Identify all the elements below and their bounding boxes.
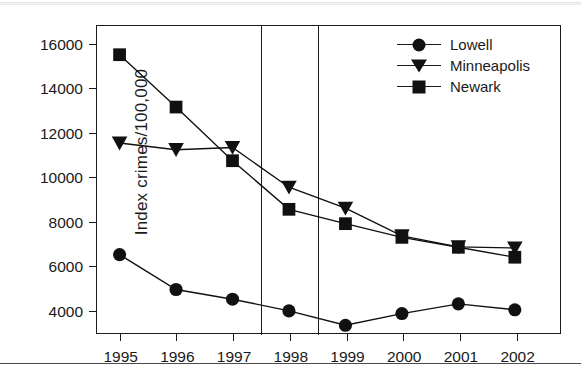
x-tick: 1999 [347, 333, 348, 341]
y-tick: 16000 [89, 44, 97, 45]
legend-label: Minneapolis [450, 56, 530, 76]
series-minneapolis [112, 136, 523, 255]
plot-area: Index crimes/100,000 4000600080001000012… [96, 25, 561, 334]
data-point-circle [113, 248, 126, 261]
data-point-triangle-down [281, 181, 297, 195]
data-point-circle [395, 307, 408, 320]
chart-page: Index crimes/100,000 4000600080001000012… [0, 0, 581, 376]
y-tick-label: 8000 [49, 214, 83, 232]
x-tick: 1996 [176, 333, 177, 341]
series-line [120, 143, 515, 248]
y-tick: 12000 [89, 133, 97, 134]
x-tick: 2002 [517, 333, 518, 341]
x-tick: 2001 [460, 333, 461, 341]
data-point-square [396, 231, 409, 244]
x-tick: 1995 [120, 333, 121, 341]
data-point-circle [169, 283, 182, 296]
x-tick: 1998 [290, 333, 291, 341]
data-point-circle [226, 293, 239, 306]
data-point-circle [508, 303, 521, 316]
data-point-square [508, 251, 521, 264]
scan-artifact-line [0, 2, 581, 5]
y-tick: 4000 [89, 311, 97, 312]
legend-marker-circle-icon [397, 35, 441, 55]
series-lowell [113, 248, 521, 332]
data-point-triangle-down [338, 202, 354, 216]
legend-label: Newark [450, 77, 501, 97]
data-point-square [226, 154, 239, 167]
y-tick-label: 16000 [40, 36, 83, 54]
data-point-circle [282, 304, 295, 317]
y-tick-label: 10000 [40, 169, 83, 187]
y-tick: 8000 [89, 222, 97, 223]
legend-marker-square-icon [397, 77, 441, 97]
y-tick: 6000 [89, 266, 97, 267]
legend-item-lowell: Lowell [397, 34, 530, 55]
x-tick: 1997 [233, 333, 234, 341]
x-tick: 2000 [403, 333, 404, 341]
data-point-square [113, 48, 126, 61]
y-tick-label: 12000 [40, 125, 83, 143]
y-tick-label: 6000 [49, 258, 83, 276]
data-point-square [452, 241, 465, 254]
legend-marker-triangle-down-icon [397, 56, 441, 76]
y-tick-label: 14000 [40, 80, 83, 98]
chart-legend: Lowell Minneapolis Newark [397, 34, 530, 97]
y-tick: 14000 [89, 88, 97, 89]
data-point-circle [452, 297, 465, 310]
legend-label: Lowell [450, 35, 493, 55]
footer-divider [0, 363, 581, 364]
data-point-square [339, 217, 352, 230]
y-tick: 10000 [89, 177, 97, 178]
legend-item-newark: Newark [397, 76, 530, 97]
data-point-circle [339, 319, 352, 332]
data-point-square [170, 101, 183, 114]
y-tick-label: 4000 [49, 303, 83, 321]
legend-item-minneapolis: Minneapolis [397, 55, 530, 76]
data-point-square [283, 203, 296, 216]
